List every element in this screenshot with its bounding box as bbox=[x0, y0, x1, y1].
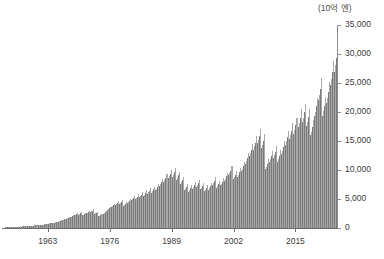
x-tick-label: 1989 bbox=[162, 236, 181, 246]
x-tick-label: 2015 bbox=[286, 236, 305, 246]
y-axis-line bbox=[337, 25, 338, 228]
caption-sliver bbox=[4, 252, 154, 259]
y-tick-label: 15,000 bbox=[345, 136, 371, 145]
y-tick-label: 30,000 bbox=[345, 49, 371, 58]
x-axis-line bbox=[2, 228, 338, 229]
y-tick bbox=[337, 228, 341, 229]
plot-area bbox=[5, 25, 337, 228]
y-tick bbox=[337, 141, 341, 142]
x-tick-label: 1963 bbox=[38, 236, 57, 246]
y-tick-label: 10,000 bbox=[345, 165, 371, 174]
y-axis-unit-label: (10억 엔) bbox=[318, 3, 351, 13]
bar-series bbox=[5, 25, 337, 228]
chart-container: (10억 엔) 05,00010,00015,00020,00025,00030… bbox=[0, 0, 384, 259]
y-tick bbox=[337, 25, 341, 26]
y-tick bbox=[337, 170, 341, 171]
x-tick bbox=[295, 228, 296, 232]
y-tick-label: 0 bbox=[345, 223, 350, 232]
y-tick bbox=[337, 83, 341, 84]
x-tick-label: 1976 bbox=[100, 236, 119, 246]
x-tick bbox=[48, 228, 49, 232]
y-tick-label: 20,000 bbox=[345, 107, 371, 116]
x-tick bbox=[110, 228, 111, 232]
y-tick bbox=[337, 199, 341, 200]
x-tick bbox=[172, 228, 173, 232]
x-tick bbox=[234, 228, 235, 232]
x-tick-label: 2002 bbox=[224, 236, 243, 246]
y-tick-label: 25,000 bbox=[345, 78, 371, 87]
y-tick bbox=[337, 112, 341, 113]
y-tick-label: 5,000 bbox=[345, 194, 366, 203]
y-tick-label: 35,000 bbox=[345, 20, 371, 29]
y-tick bbox=[337, 54, 341, 55]
